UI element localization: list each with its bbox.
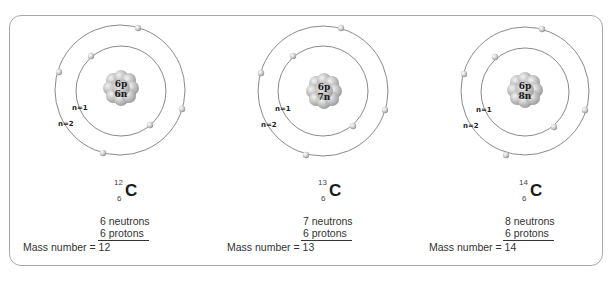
shell-label-n2: n=2	[261, 121, 277, 129]
electron-icon	[56, 69, 62, 75]
nucleus-neutrons: 7n	[318, 92, 331, 102]
electron-icon	[492, 54, 498, 60]
electron-icon	[303, 152, 309, 158]
electron-icon	[179, 106, 185, 112]
atomic-number-subscript: 6	[522, 194, 526, 203]
electron-icon	[290, 53, 296, 59]
neutrons-count: 8 neutrons	[505, 215, 555, 227]
electron-icon	[503, 152, 509, 158]
electron-icon	[551, 124, 557, 130]
electron-icon	[382, 107, 388, 113]
nucleus-neutrons: 8n	[519, 91, 532, 101]
shell-label-n2: n=2	[463, 122, 479, 130]
mass-number-superscript: 12	[114, 178, 123, 187]
electron-icon	[539, 26, 545, 32]
nucleus-protons: 6p	[318, 82, 331, 92]
shell-label-n1: n=1	[476, 106, 492, 114]
atom-carbon-12: 6p 6n n=1 n=2	[55, 25, 185, 156]
element-symbol: C	[125, 181, 137, 201]
atom-carbon-13: 6p 7n n=1 n=2	[258, 25, 388, 158]
atom-carbon-14: 6p 8n n=1 n=2	[461, 26, 589, 158]
electron-icon	[461, 71, 467, 77]
electron-icon	[135, 25, 141, 31]
electron-icon	[147, 122, 153, 128]
mass-number-superscript: 14	[519, 178, 528, 187]
electron-icon	[100, 150, 106, 156]
shell-label-n1: n=1	[275, 105, 291, 113]
mass-number-result: Mass number = 14	[429, 241, 516, 253]
neutrons-count: 7 neutrons	[303, 215, 353, 227]
nucleus-protons: 6p	[115, 79, 128, 89]
electron-icon	[88, 53, 94, 59]
mass-number-result: Mass number = 13	[227, 241, 314, 253]
mass-number-superscript: 13	[318, 178, 327, 187]
atomic-number-subscript: 6	[117, 194, 121, 203]
electron-icon	[582, 107, 588, 113]
nucleus-neutrons: 6n	[115, 89, 128, 99]
element-symbol: C	[329, 181, 341, 201]
protons-count: 6 protons	[100, 227, 144, 239]
protons-count: 6 protons	[303, 227, 347, 239]
mass-number-result: Mass number = 12	[23, 241, 110, 253]
protons-count: 6 protons	[505, 227, 549, 239]
electron-icon	[338, 25, 344, 31]
neutrons-count: 6 neutrons	[100, 215, 150, 227]
nucleus-protons: 6p	[519, 81, 532, 91]
shell-label-n1: n=1	[72, 104, 88, 112]
electron-icon	[258, 70, 264, 76]
electron-icon	[350, 123, 356, 129]
atomic-number-subscript: 6	[321, 194, 325, 203]
shell-label-n2: n=2	[58, 120, 74, 128]
element-symbol: C	[530, 181, 542, 201]
